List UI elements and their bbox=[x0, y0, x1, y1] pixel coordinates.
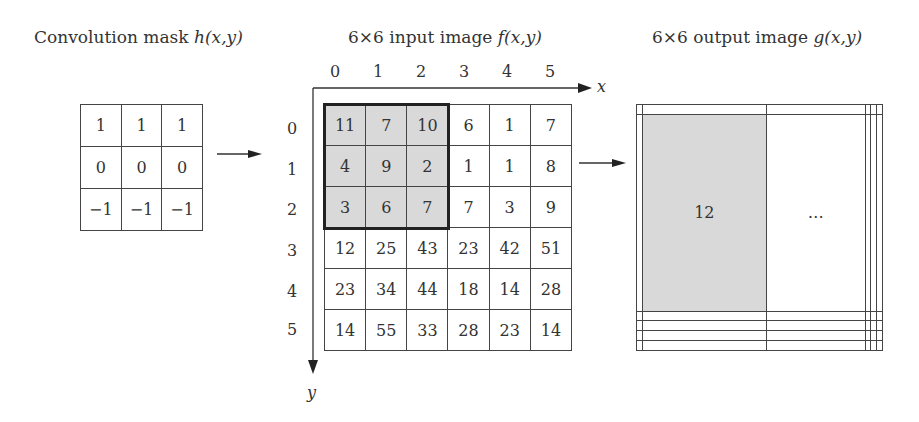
input-cell-highlighted: 2 bbox=[407, 146, 448, 187]
input-cell: 9 bbox=[530, 187, 571, 228]
input-cell: 1 bbox=[489, 146, 530, 187]
output-row bbox=[637, 341, 883, 351]
input-cell: 44 bbox=[407, 269, 448, 310]
mask-cell: −1 bbox=[81, 189, 122, 231]
input-cell: 1 bbox=[489, 105, 530, 146]
mask-row: 0 0 0 bbox=[81, 147, 203, 189]
input-cell: 7 bbox=[530, 105, 571, 146]
input-cell-highlighted: 6 bbox=[366, 187, 407, 228]
input-cell: 14 bbox=[530, 310, 571, 351]
input-cell-highlighted: 3 bbox=[325, 187, 366, 228]
input-row: 4 9 2 1 1 8 bbox=[325, 146, 572, 187]
output-row bbox=[637, 321, 883, 331]
y-tick: 1 bbox=[282, 160, 302, 179]
y-tick: 4 bbox=[282, 282, 302, 301]
input-cell-highlighted: 10 bbox=[407, 105, 448, 146]
output-cell bbox=[642, 331, 766, 341]
input-grid: 11 7 10 6 1 7 4 9 2 1 1 8 3 6 7 7 3 9 12… bbox=[324, 104, 572, 351]
output-cell bbox=[877, 341, 883, 351]
output-cell bbox=[642, 105, 766, 115]
mask-grid: 1 1 1 0 0 0 −1 −1 −1 bbox=[80, 104, 203, 231]
input-cell: 28 bbox=[530, 269, 571, 310]
y-tick: 0 bbox=[282, 119, 302, 138]
output-cell bbox=[877, 331, 883, 341]
output-row bbox=[637, 311, 883, 321]
mask-cell: 1 bbox=[121, 105, 162, 147]
output-row bbox=[637, 331, 883, 341]
output-cell bbox=[642, 341, 766, 351]
input-cell: 8 bbox=[530, 146, 571, 187]
input-cell: 18 bbox=[448, 269, 489, 310]
output-cell bbox=[642, 311, 766, 321]
input-row: 12 25 43 23 42 51 bbox=[325, 228, 572, 269]
input-cell: 14 bbox=[325, 310, 366, 351]
input-cell: 33 bbox=[407, 310, 448, 351]
output-row: 12 … bbox=[637, 114, 883, 311]
output-cell bbox=[642, 321, 766, 331]
x-tick: 1 bbox=[368, 62, 388, 81]
input-row: 11 7 10 6 1 7 bbox=[325, 105, 572, 146]
mask-cell: 1 bbox=[162, 105, 203, 147]
input-row: 14 55 33 28 23 14 bbox=[325, 310, 572, 351]
input-cell: 34 bbox=[366, 269, 407, 310]
mask-cell: 1 bbox=[81, 105, 122, 147]
output-grid: 12 … bbox=[636, 104, 883, 351]
output-cell bbox=[766, 331, 865, 341]
input-row: 3 6 7 7 3 9 bbox=[325, 187, 572, 228]
mask-cell: 0 bbox=[162, 147, 203, 189]
input-cell: 51 bbox=[530, 228, 571, 269]
mask-row: −1 −1 −1 bbox=[81, 189, 203, 231]
input-cell-highlighted: 11 bbox=[325, 105, 366, 146]
output-cell bbox=[766, 321, 865, 331]
mask-cell: 0 bbox=[81, 147, 122, 189]
input-cell: 1 bbox=[448, 146, 489, 187]
x-axis-label: x bbox=[597, 77, 606, 96]
input-cell: 23 bbox=[489, 310, 530, 351]
mask-cell: −1 bbox=[121, 189, 162, 231]
y-axis-label: y bbox=[307, 383, 316, 402]
mask-row: 1 1 1 bbox=[81, 105, 203, 147]
input-cell: 7 bbox=[448, 187, 489, 228]
x-tick: 3 bbox=[454, 62, 474, 81]
output-cell bbox=[766, 105, 865, 115]
input-row: 23 34 44 18 14 28 bbox=[325, 269, 572, 310]
y-tick: 5 bbox=[282, 320, 302, 339]
output-cell-highlighted: 12 bbox=[642, 114, 766, 311]
output-cell bbox=[877, 321, 883, 331]
input-cell: 43 bbox=[407, 228, 448, 269]
input-cell-highlighted: 7 bbox=[366, 105, 407, 146]
x-tick: 0 bbox=[325, 62, 345, 81]
input-cell: 23 bbox=[448, 228, 489, 269]
input-cell: 28 bbox=[448, 310, 489, 351]
input-cell: 6 bbox=[448, 105, 489, 146]
input-cell-highlighted: 4 bbox=[325, 146, 366, 187]
output-cell bbox=[766, 311, 865, 321]
output-cell bbox=[877, 105, 883, 115]
input-cell: 55 bbox=[366, 310, 407, 351]
input-cell-highlighted: 9 bbox=[366, 146, 407, 187]
output-cell bbox=[877, 114, 883, 311]
input-cell: 25 bbox=[366, 228, 407, 269]
x-tick: 5 bbox=[540, 62, 560, 81]
input-cell: 12 bbox=[325, 228, 366, 269]
output-row bbox=[637, 105, 883, 115]
x-tick: 2 bbox=[411, 62, 431, 81]
output-cell bbox=[766, 341, 865, 351]
mask-cell: −1 bbox=[162, 189, 203, 231]
input-cell: 14 bbox=[489, 269, 530, 310]
input-cell: 42 bbox=[489, 228, 530, 269]
y-tick: 2 bbox=[282, 200, 302, 219]
output-cell-ellipsis: … bbox=[766, 114, 865, 311]
mask-cell: 0 bbox=[121, 147, 162, 189]
y-tick: 3 bbox=[282, 241, 302, 260]
x-tick: 4 bbox=[497, 62, 517, 81]
input-cell: 3 bbox=[489, 187, 530, 228]
input-cell-highlighted: 7 bbox=[407, 187, 448, 228]
output-cell bbox=[877, 311, 883, 321]
input-cell: 23 bbox=[325, 269, 366, 310]
